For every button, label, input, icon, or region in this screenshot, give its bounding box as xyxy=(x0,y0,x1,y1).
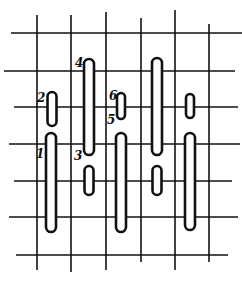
stitch-number-label: 2 xyxy=(36,91,45,105)
stitch xyxy=(46,133,56,232)
stitch xyxy=(153,166,162,195)
stitches xyxy=(46,58,195,232)
stitch xyxy=(85,166,94,195)
stitch-grid-diagram: 123456 xyxy=(0,0,242,286)
stitch xyxy=(185,133,195,230)
stitch xyxy=(152,58,162,155)
stitch-number-label: 1 xyxy=(36,147,44,161)
stitch xyxy=(48,92,57,126)
stitch-number-label: 6 xyxy=(109,89,118,103)
stitch-number-label: 4 xyxy=(75,56,83,70)
stitch-number-label: 3 xyxy=(74,149,82,163)
stitch xyxy=(116,133,126,232)
stitch-number-label: 5 xyxy=(107,113,115,127)
stitch xyxy=(117,93,125,119)
stitch xyxy=(84,59,94,155)
stitch xyxy=(186,94,194,118)
